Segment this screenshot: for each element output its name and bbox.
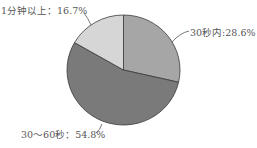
pie-chart xyxy=(0,0,257,148)
label-over-1min: 1分钟以上：16.7% xyxy=(1,5,87,16)
pie-slices xyxy=(67,15,180,125)
leader-30s-within xyxy=(172,31,189,42)
label-30-60s: 30～60秒：54.8% xyxy=(21,129,105,140)
label-30s-within: 30秒内:28.6% xyxy=(190,27,255,38)
